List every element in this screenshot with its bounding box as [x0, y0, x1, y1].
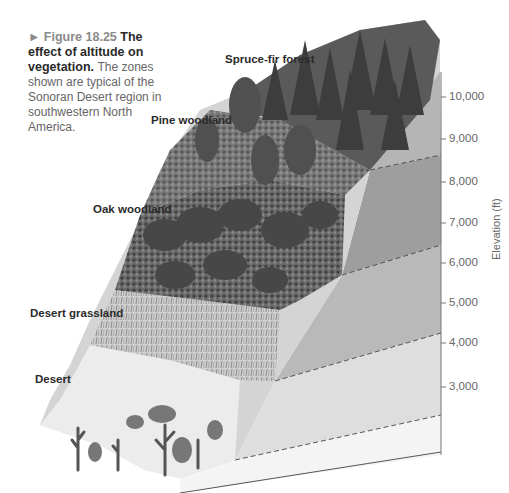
elevation-axis [441, 72, 446, 455]
zone-label-desert: Desert [35, 373, 71, 385]
tick-3000: 3,000 [449, 380, 478, 392]
tick-6000: 6,000 [449, 256, 478, 268]
tick-8000: 8,000 [449, 175, 478, 187]
tick-9000: 9,000 [449, 132, 478, 144]
tick-4000: 4,000 [449, 336, 478, 348]
tick-5000: 5,000 [449, 296, 478, 308]
zone-label-pine: Pine woodland [151, 114, 232, 126]
elevation-diagram [0, 0, 509, 493]
tick-10000: 10,000 [449, 90, 484, 102]
tick-7000: 7,000 [449, 216, 478, 228]
axis-title: Elevation (ft) [490, 198, 502, 260]
zone-label-desert-grassland: Desert grassland [30, 307, 123, 319]
zone-label-oak: Oak woodland [93, 203, 172, 215]
zone-label-spruce-fir: Spruce-fir forest [225, 53, 314, 65]
